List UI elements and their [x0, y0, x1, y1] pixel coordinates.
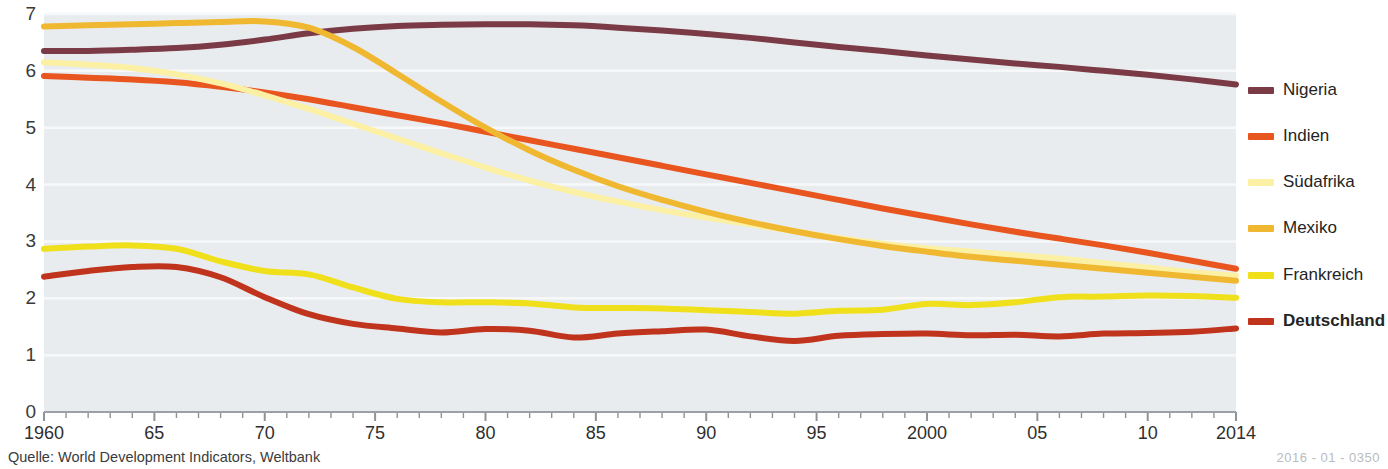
y-axis-tick-label: 3	[6, 231, 36, 250]
y-axis-tick-label: 2	[6, 288, 36, 307]
x-axis-tick-label: 95	[807, 424, 827, 442]
x-axis-ticks-group	[44, 412, 1236, 421]
x-axis-tick-label: 90	[696, 424, 716, 442]
legend-item-label: Südafrika	[1283, 172, 1355, 192]
legend-item-label: Nigeria	[1283, 80, 1337, 100]
source-note: Quelle: World Development Indicators, We…	[8, 449, 320, 465]
series-line-indien	[44, 76, 1236, 269]
x-axis-tick-label: 70	[255, 424, 275, 442]
legend-swatch-icon	[1248, 225, 1274, 232]
x-axis-tick-label: 10	[1138, 424, 1158, 442]
y-axis-tick-label: 4	[6, 175, 36, 194]
series-line-nigeria	[44, 24, 1236, 84]
legend-item-sdafrika[interactable]: Südafrika	[1248, 172, 1355, 192]
y-axis-tick-label: 7	[6, 4, 36, 23]
legend-item-deutschland[interactable]: Deutschland	[1248, 311, 1385, 331]
x-axis-tick-label: 2000	[907, 424, 947, 442]
legend-swatch-icon	[1248, 87, 1274, 94]
y-axis-tick-label: 6	[6, 61, 36, 80]
chart-legend: NigeriaIndienSüdafrikaMexikoFrankreichDe…	[1248, 0, 1388, 469]
x-axis-tick-label: 75	[365, 424, 385, 442]
legend-swatch-icon	[1248, 272, 1274, 279]
x-axis-tick-label: 1960	[24, 424, 64, 442]
legend-item-label: Deutschland	[1283, 311, 1385, 331]
legend-item-mexiko[interactable]: Mexiko	[1248, 218, 1337, 238]
legend-swatch-icon	[1248, 179, 1274, 186]
legend-item-nigeria[interactable]: Nigeria	[1248, 80, 1337, 100]
y-axis-tick-label: 1	[6, 345, 36, 364]
x-axis-tick-label: 05	[1027, 424, 1047, 442]
y-axis-tick-label: 0	[6, 402, 36, 421]
x-axis-tick-label: 80	[475, 424, 495, 442]
y-axis-tick-label: 5	[6, 118, 36, 137]
chart-canvas	[0, 0, 1388, 469]
y-axis-tick-labels: 01234567	[0, 0, 36, 469]
legend-item-indien[interactable]: Indien	[1248, 126, 1329, 146]
legend-item-label: Frankreich	[1283, 265, 1363, 285]
fertility-rate-line-chart: 01234567 196065707580859095200005102014 …	[0, 0, 1388, 469]
legend-item-label: Mexiko	[1283, 218, 1337, 238]
legend-item-frankreich[interactable]: Frankreich	[1248, 265, 1363, 285]
x-axis-tick-label: 85	[586, 424, 606, 442]
document-code: 2016 - 01 - 0350	[1277, 450, 1380, 465]
x-axis-tick-label: 65	[144, 424, 164, 442]
legend-swatch-icon	[1248, 133, 1274, 140]
series-line-sdafrika	[44, 62, 1236, 275]
series-lines-group	[44, 21, 1236, 341]
legend-item-label: Indien	[1283, 126, 1329, 146]
legend-swatch-icon	[1248, 318, 1274, 325]
series-line-deutschland	[44, 266, 1236, 341]
